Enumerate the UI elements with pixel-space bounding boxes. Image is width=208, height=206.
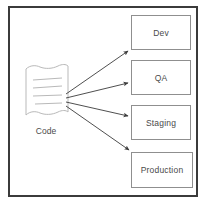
env-box-dev-label: Dev: [153, 28, 169, 38]
env-box-production[interactable]: Production: [131, 152, 193, 188]
code-label: Code: [16, 126, 76, 136]
diagram-canvas: Code Dev QA Staging Production: [0, 0, 208, 206]
env-box-staging-label: Staging: [146, 118, 176, 128]
env-box-staging[interactable]: Staging: [131, 105, 191, 140]
env-box-dev[interactable]: Dev: [131, 15, 191, 50]
env-box-production-label: Production: [141, 165, 184, 175]
env-box-qa[interactable]: QA: [131, 60, 191, 95]
env-box-qa-label: QA: [155, 73, 168, 83]
